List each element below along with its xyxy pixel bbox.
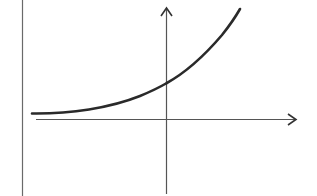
exponential-curve bbox=[32, 9, 240, 114]
exponential-graph bbox=[0, 0, 317, 196]
